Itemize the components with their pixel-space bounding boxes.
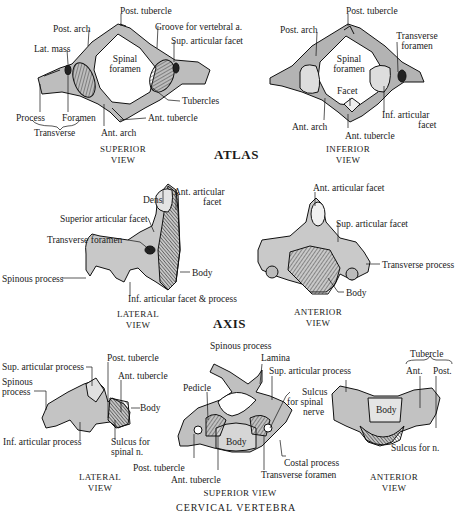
label-body: Body [192,268,213,278]
caption-line-2: VIEW [95,155,151,166]
label-sup-articular-facet: Sup. articular facet [336,219,408,229]
label-spinal: Spinal [332,54,366,64]
caption-line-1: INFERIOR [320,144,376,155]
axis-anterior-bone [258,198,370,294]
label-facet: facet [203,197,221,207]
caption-lateral-view: LATERAL VIEW [110,309,166,331]
label-superior-articular-facet: Superior articular facet [60,214,148,224]
label-post: Post. [433,366,452,376]
label-ant-articular: Ant. articular [174,187,225,197]
label-inf-articular-facet-process: Inf. articular facet & process [128,294,237,304]
label-post-tubercle: Post. tubercle [133,463,185,473]
label-transverse-foramen: Transverse foramen [261,470,336,480]
caption-line-1: ANTERIOR [362,472,426,483]
caption-anterior-view: ANTERIOR VIEW [362,472,426,494]
section-title-cervical-vertebra: CERVICAL VERTEBRA [176,502,296,513]
cervical-lateral-bone [42,378,130,432]
label-facet: Facet [337,86,358,96]
label-lat-mass: Lat. mass [34,44,70,54]
label-spinous-process: Spinous process [210,341,272,351]
caption-line-2: VIEW [320,155,376,166]
label-sulcus-for: Sulcus for [111,437,150,447]
section-title-axis: AXIS [213,316,246,332]
label-ant-arch: Ant. arch [101,128,136,138]
label-sulcus-for-n: Sulcus for n. [391,443,439,453]
caption-line-1: LATERAL [110,309,166,320]
caption-line-1: SUPERIOR [95,144,151,155]
label-ant-tubercle: Ant. tubercle [345,131,395,141]
caption-line-2: VIEW [72,483,128,494]
label-foramen: foramen [392,41,442,51]
label-body: Body [376,405,397,415]
caption-lateral-view: LATERAL VIEW [72,472,128,494]
label-post-tubercle: Post. tubercle [346,6,398,16]
label-tubercles: Tubercles [182,96,219,106]
label-transverse-process: Transverse process [382,260,454,270]
label-spinal-n: spinal n. [111,447,143,457]
caption-anterior-view: ANTERIOR VIEW [286,307,350,329]
caption-inferior-view: INFERIOR VIEW [320,144,376,166]
label-pedicle: Pedicle [183,383,211,393]
label-nerve: nerve [303,407,324,417]
label-dens: Dens [143,195,163,205]
caption-line-2: VIEW [110,320,166,331]
label-post-tubercle: Post. tubercle [120,6,172,16]
caption-line-2: VIEW [286,318,350,329]
label-costal-process: Costal process [284,458,339,468]
label-inf-articular: Inf. articular [382,110,429,120]
label-spinal: Spinal [110,54,140,64]
label-ant-tubercle: Ant. tubercle [171,475,221,485]
cervical-anterior-bone [332,386,440,446]
label-body: Body [140,403,161,413]
label-body: Body [346,288,367,298]
caption-superior-view: SUPERIOR VIEW [200,488,280,499]
label-lamina: Lamina [261,353,290,363]
label-foramen-transverse: Foramen [62,113,96,123]
label-post-tubercle: Post. tubercle [107,353,159,363]
label-for-spinal: for spinal [287,397,323,407]
label-groove-vertebral-a: Groove for vertebral a. [155,22,242,32]
label-tubercle: Tubercle [410,349,443,359]
label-inf-articular-process: Inf. articular process [3,437,81,447]
caption-line-1: LATERAL [72,472,128,483]
caption-line-2: VIEW [362,483,426,494]
label-ant-tubercle: Ant. tubercle [148,113,198,123]
caption-line-1: SUPERIOR VIEW [200,488,280,499]
label-ant-arch: Ant. arch [292,122,327,132]
label-transverse: Transverse [34,128,75,138]
label-sup-articular-process: Sup. articular process [269,366,351,376]
label-transverse: Transverse [392,31,442,41]
label-spinous: Spinous [2,377,33,387]
caption-superior-view: SUPERIOR VIEW [95,144,151,166]
label-ant-articular-facet: Ant. articular facet [313,183,384,193]
label-process: process [2,387,31,397]
label-ant-tubercle: Ant. tubercle [118,371,168,381]
label-post-arch: Post. arch [280,25,317,35]
label-foramen: foramen [106,64,144,74]
label-process: Process [16,113,45,123]
label-sup-articular-process: Sup. articular process [2,362,84,372]
label-transverse-foramen: Transverse foramen [47,235,122,245]
label-post-arch: Post. arch [53,24,90,34]
label-foramen-spinal: foramen [328,64,370,74]
caption-line-1: ANTERIOR [286,307,350,318]
label-ant: Ant. [406,366,423,376]
section-title-atlas: ATLAS [214,147,259,163]
label-spinous-process: Spinous process [2,274,64,284]
label-facet-2: facet [418,120,436,130]
label-sup-articular-facet: Sup. articular facet [171,36,243,46]
label-sulcus: Sulcus [302,387,327,397]
label-body: Body [226,437,247,447]
